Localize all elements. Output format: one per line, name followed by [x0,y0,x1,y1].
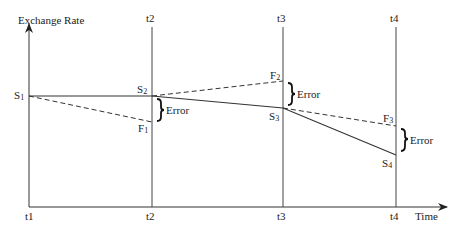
bottom-label-t3: t3 [277,210,286,222]
spot-rate-path [29,96,396,155]
bottom-label-t4: t4 [390,210,399,222]
error-label-2: Error [297,88,321,100]
label-f3: F3 [383,112,393,125]
y-axis-label: Exchange Rate [18,14,84,26]
error-brace-3 [401,129,408,151]
label-f1: F1 [138,122,148,135]
forward-line-1 [29,96,152,122]
error-brace-1 [157,99,164,121]
bottom-label-t2: t2 [146,210,155,222]
label-f2: F2 [270,69,280,82]
forward-rate-error-diagram: Exchange Rate Time t2 t3 t4 t1 t2 t3 t4 … [0,0,459,229]
forward-line-2 [152,81,283,96]
forward-line-3 [283,108,396,126]
top-label-t2: t2 [146,12,155,24]
error-label-3: Error [410,134,434,146]
label-s4: S4 [382,157,392,170]
label-s3: S3 [269,110,279,123]
error-brace-2 [288,83,295,105]
label-s2: S2 [137,83,147,96]
error-label-1: Error [166,104,190,116]
top-label-t3: t3 [277,12,286,24]
bottom-label-t1: t1 [25,210,34,222]
top-label-t4: t4 [390,12,399,24]
label-s1: S1 [14,89,24,102]
x-axis-label: Time [415,210,438,222]
